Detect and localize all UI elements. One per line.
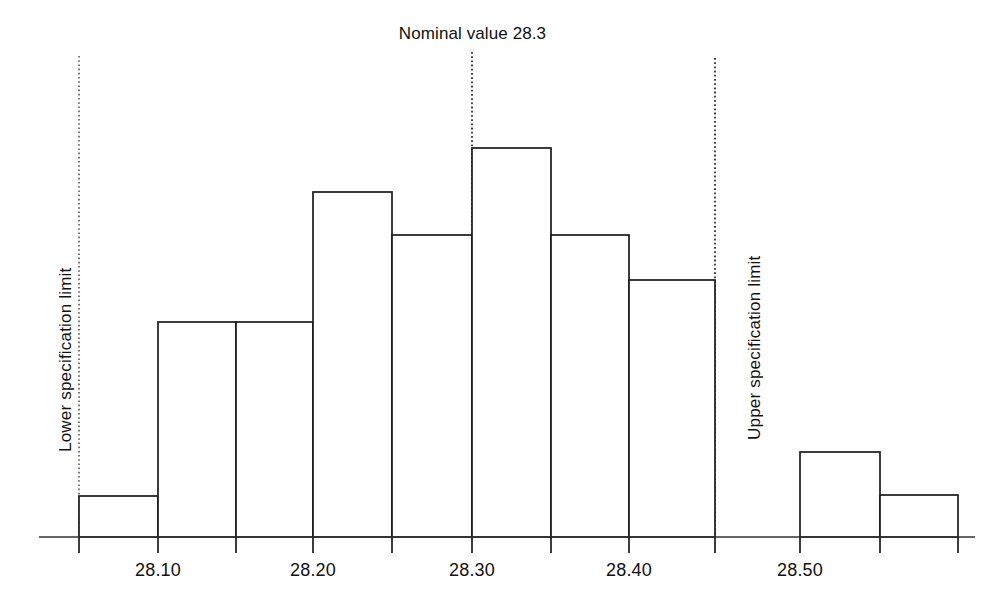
histogram-bar xyxy=(551,235,629,537)
histogram-bar xyxy=(880,495,958,537)
histogram-bar xyxy=(472,148,551,537)
x-axis-ticks xyxy=(79,537,958,553)
x-tick-label: 28.50 xyxy=(777,560,823,581)
histogram-bar xyxy=(313,192,392,537)
histogram-bar xyxy=(629,280,715,537)
histogram-bar xyxy=(79,496,158,537)
histogram-bar xyxy=(236,322,313,537)
x-tick-label: 28.40 xyxy=(606,560,652,581)
x-tick-label: 28.30 xyxy=(449,560,495,581)
lower-specification-limit-label: Lower specification limit xyxy=(56,267,76,452)
histogram-figure: Nominal value 28.3 xyxy=(0,0,985,615)
histogram-bar xyxy=(158,322,236,537)
chart-plot-area xyxy=(0,0,985,615)
histogram-bar xyxy=(800,452,880,537)
x-tick-label: 28.20 xyxy=(290,560,336,581)
histogram-bars xyxy=(79,148,958,537)
x-tick-label: 28.10 xyxy=(135,560,181,581)
upper-specification-limit-label: Upper specification limit xyxy=(745,255,765,440)
histogram-bar xyxy=(392,235,472,537)
